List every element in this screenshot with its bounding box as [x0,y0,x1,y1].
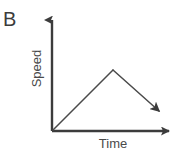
speed-fall-segment [113,70,159,111]
y-axis-label: Speed [30,29,43,109]
speed-rise-segment [53,70,113,130]
x-axis-label: Time [78,137,148,151]
speed-time-chart [0,0,182,159]
figure-panel: B Speed Time [0,0,182,159]
panel-letter: B [3,9,16,29]
